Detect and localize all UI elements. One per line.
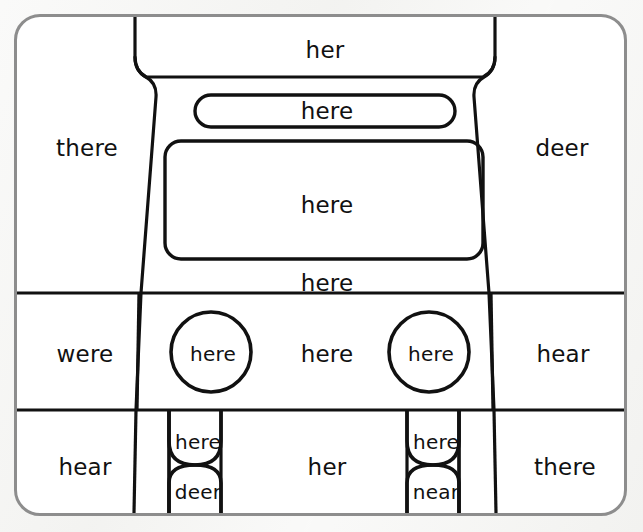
- label-left-wheel-top: here: [175, 432, 221, 452]
- label-right-wheel-bottom: near: [413, 482, 459, 502]
- label-rear-spoiler: here: [301, 100, 354, 123]
- label-right-wheel-top: here: [413, 432, 459, 452]
- label-right-fender-bottom: there: [534, 456, 596, 479]
- label-bumper: her: [308, 456, 347, 479]
- mid-divider-left: [137, 293, 139, 410]
- bottom-divider-left: [134, 410, 136, 513]
- mid-divider-right: [491, 293, 493, 410]
- label-right-fender-mid: hear: [536, 343, 589, 366]
- label-windshield: here: [301, 194, 354, 217]
- label-roof: her: [306, 39, 345, 62]
- label-left-fender-top: there: [56, 137, 118, 160]
- worksheet-frame: her here here here there deer were hear …: [14, 14, 627, 516]
- label-left-fender-bottom: hear: [58, 456, 111, 479]
- label-right-headlight: here: [408, 344, 454, 364]
- worksheet-page: her here here here there deer were hear …: [0, 0, 643, 532]
- label-grille: here: [301, 343, 354, 366]
- label-left-headlight: here: [190, 344, 236, 364]
- car-line-drawing: [17, 17, 624, 513]
- label-hood: here: [301, 272, 354, 295]
- label-left-wheel-bottom: deer: [175, 482, 221, 502]
- label-right-fender-top: deer: [535, 137, 588, 160]
- bottom-divider-right: [494, 410, 496, 513]
- label-left-fender-mid: were: [57, 343, 114, 366]
